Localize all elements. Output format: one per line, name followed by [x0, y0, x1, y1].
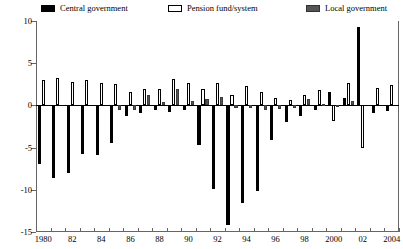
y-tick-label: -5 — [2, 143, 32, 151]
bar-pension-fund — [56, 78, 59, 105]
bar-group — [94, 21, 109, 232]
x-tick-label: 88 — [155, 235, 164, 244]
bar-pension-fund — [201, 89, 204, 105]
bar-group — [109, 21, 124, 232]
bar-pension-fund — [318, 90, 321, 105]
x-tick-label: 96 — [271, 235, 280, 244]
bar-pension-fund — [187, 83, 190, 106]
bar-pension-fund — [376, 88, 379, 106]
bar-local-government — [249, 105, 252, 108]
bar-central-government — [125, 105, 128, 115]
bar-group — [283, 21, 298, 232]
bar-central-government — [212, 105, 215, 189]
bar-central-government — [183, 105, 186, 109]
bar-group — [297, 21, 312, 232]
bar-pension-fund — [245, 86, 248, 105]
legend-item-pension-fund: Pension fund/system — [168, 3, 258, 13]
bar-local-government — [191, 101, 194, 105]
bar-central-government — [110, 105, 113, 142]
bar-local-government — [264, 105, 267, 110]
bar-central-government — [226, 105, 229, 225]
bar-group — [181, 21, 196, 232]
bar-central-government — [81, 105, 84, 154]
y-tick-label: 5 — [2, 59, 32, 67]
bar-pension-fund — [260, 92, 263, 106]
bar-local-government — [205, 99, 208, 106]
bar-central-government — [67, 105, 70, 173]
x-tick-label: 92 — [213, 235, 222, 244]
legend-item-local-government: Local government — [306, 3, 387, 13]
x-tick — [399, 228, 400, 232]
bar-group — [210, 21, 225, 232]
bar-group — [254, 21, 269, 232]
chart-root: Central government Pension fund/system L… — [0, 0, 403, 249]
bar-group — [80, 21, 95, 232]
bar-group — [326, 21, 341, 232]
bar-central-government — [241, 105, 244, 203]
bar-local-government — [147, 95, 150, 105]
bar-local-government — [336, 105, 339, 107]
bar-pension-fund — [129, 92, 132, 106]
legend-swatch-central-government — [41, 5, 55, 12]
bar-central-government — [285, 105, 288, 122]
x-tick-label: 90 — [184, 235, 193, 244]
bar-group — [138, 21, 153, 232]
legend-swatch-local-government — [306, 5, 320, 12]
bar-group — [36, 21, 51, 232]
bar-pension-fund — [114, 84, 117, 105]
bar-central-government — [52, 105, 55, 178]
bar-central-government — [328, 92, 331, 106]
bar-central-government — [154, 105, 157, 110]
bar-pension-fund — [361, 105, 364, 147]
bar-group — [239, 21, 254, 232]
bar-pension-fund — [71, 82, 74, 106]
bar-central-government — [299, 105, 302, 115]
bar-group — [341, 21, 356, 232]
bar-pension-fund — [390, 85, 393, 105]
bar-local-government — [293, 105, 296, 108]
legend-label-pension-fund: Pension fund/system — [187, 3, 258, 13]
bar-group — [370, 21, 385, 232]
x-tick-label: 2004 — [383, 235, 400, 244]
bar-central-government — [96, 105, 99, 155]
bar-group — [225, 21, 240, 232]
bar-local-government — [118, 105, 121, 110]
bar-central-government — [256, 105, 259, 191]
legend-label-local-government: Local government — [325, 3, 387, 13]
x-tick-label: 86 — [126, 235, 135, 244]
bar-central-government — [386, 105, 389, 111]
bar-pension-fund — [289, 100, 292, 105]
legend-label-central-government: Central government — [60, 3, 128, 13]
bar-central-government — [197, 105, 200, 145]
x-tick-label: 2000 — [325, 235, 342, 244]
bar-group — [167, 21, 182, 232]
legend-item-central-government: Central government — [41, 3, 128, 13]
x-tick-label: 1980 — [35, 235, 52, 244]
bar-pension-fund — [230, 95, 233, 105]
bar-group — [51, 21, 66, 232]
bar-local-government — [162, 102, 165, 105]
bar-pension-fund — [143, 89, 146, 105]
bar-pension-fund — [42, 80, 45, 105]
bar-group — [268, 21, 283, 232]
bar-central-government — [168, 105, 171, 112]
bar-central-government — [357, 27, 360, 105]
bar-local-government — [133, 105, 136, 109]
bar-central-government — [270, 105, 273, 140]
bar-pension-fund — [158, 89, 161, 106]
bar-central-government — [314, 105, 317, 110]
bar-central-government — [343, 98, 346, 106]
bar-group — [384, 21, 399, 232]
bar-pension-fund — [332, 105, 335, 121]
x-tick-label: 02 — [358, 235, 367, 244]
bar-local-government — [176, 89, 179, 105]
bar-local-government — [351, 101, 354, 105]
y-tick-label: 0 — [2, 101, 32, 109]
y-tick-label: -10 — [2, 185, 32, 193]
bar-local-government — [322, 104, 325, 106]
bar-pension-fund — [216, 83, 219, 105]
bar-group — [312, 21, 327, 232]
bar-local-government — [220, 97, 223, 105]
bar-local-government — [278, 105, 281, 108]
chart-legend: Central government Pension fund/system L… — [0, 2, 403, 18]
